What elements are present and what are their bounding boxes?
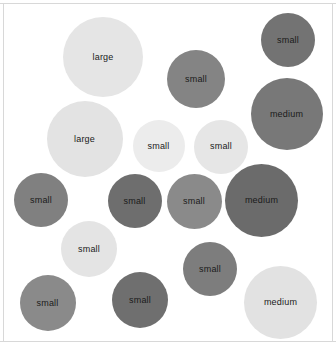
bubble-medium-15[interactable]: medium (244, 266, 317, 339)
bubble-small-5[interactable]: small (133, 120, 185, 172)
bubble-medium-3[interactable]: medium (251, 78, 323, 150)
bubble-small-6[interactable]: small (194, 120, 248, 174)
bubble-medium-10[interactable]: medium (225, 164, 298, 237)
bubble-label: small (199, 265, 221, 274)
bubble-label: small (147, 142, 169, 151)
bubble-label: medium (270, 110, 303, 119)
chart-frame-bottom-border (0, 341, 336, 342)
bubble-small-1[interactable]: small (167, 50, 225, 108)
bubble-label: large (92, 53, 113, 62)
bubble-small-13[interactable]: small (20, 275, 76, 331)
bubble-label: small (30, 196, 52, 205)
bubble-label: small (185, 75, 207, 84)
bubble-large-4[interactable]: large (47, 101, 123, 177)
bubble-label: large (74, 135, 95, 144)
bubble-label: small (183, 197, 205, 206)
bubble-label: small (277, 36, 299, 45)
bubble-small-11[interactable]: small (61, 221, 117, 277)
bubble-small-12[interactable]: small (183, 242, 237, 296)
bubble-label: small (36, 299, 58, 308)
bubble-label: medium (264, 298, 297, 307)
bubble-small-14[interactable]: small (112, 272, 168, 328)
bubble-label: small (210, 142, 232, 151)
bubble-label: medium (245, 196, 278, 205)
bubble-label: small (78, 245, 100, 254)
bubble-small-8[interactable]: small (108, 174, 162, 228)
bubble-cluster-chart: largesmallsmallmediumlargesmallsmallsmal… (0, 0, 336, 350)
bubble-small-9[interactable]: small (167, 174, 222, 229)
bubble-large-0[interactable]: large (63, 17, 143, 97)
bubble-small-2[interactable]: small (261, 13, 315, 67)
bubble-label: small (123, 197, 145, 206)
chart-plot-area: largesmallsmallmediumlargesmallsmallsmal… (4, 4, 332, 341)
bubble-label: small (129, 296, 151, 305)
chart-frame-right-border (332, 3, 333, 342)
bubble-small-7[interactable]: small (14, 173, 68, 227)
